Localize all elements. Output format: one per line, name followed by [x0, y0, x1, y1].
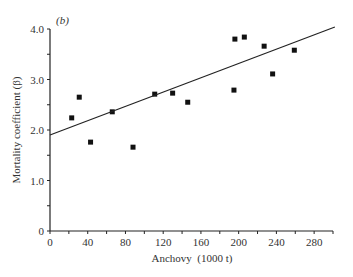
- x-tick-label: 240: [268, 236, 285, 248]
- data-point: [88, 140, 93, 145]
- plot-area: [50, 27, 335, 150]
- panel-label: (b): [56, 14, 69, 27]
- y-tick-label: 1.0: [30, 175, 44, 187]
- y-tick-label: 0: [39, 225, 45, 237]
- y-tick-label: 4.0: [30, 23, 44, 35]
- data-point: [69, 115, 74, 120]
- data-point: [232, 37, 237, 42]
- x-tick-label: 80: [120, 236, 132, 248]
- x-tick-label: 160: [193, 236, 210, 248]
- y-tick-label: 2.0: [30, 124, 44, 136]
- data-point: [77, 95, 82, 100]
- x-tick-label: 0: [47, 236, 53, 248]
- x-tick-label: 40: [82, 236, 94, 248]
- data-point: [170, 91, 175, 96]
- y-tick-label: 3.0: [30, 74, 44, 86]
- x-axis-title: Anchovy (1000 t): [152, 252, 233, 265]
- data-point: [270, 71, 275, 76]
- regression-line: [50, 27, 335, 135]
- data-point: [131, 145, 136, 150]
- scatter-chart: 0408012016020024028001.02.03.04.0 (b) An…: [0, 0, 353, 277]
- y-axis-title: Mortality coefficient (β): [10, 76, 23, 183]
- axes: 0408012016020024028001.02.03.04.0: [30, 23, 333, 248]
- x-tick-label: 120: [155, 236, 172, 248]
- x-tick-label: 200: [230, 236, 247, 248]
- data-point: [292, 48, 297, 53]
- data-point: [262, 44, 267, 49]
- x-tick-label: 280: [306, 236, 323, 248]
- data-point: [231, 88, 236, 93]
- data-point: [185, 100, 190, 105]
- data-point: [242, 35, 247, 40]
